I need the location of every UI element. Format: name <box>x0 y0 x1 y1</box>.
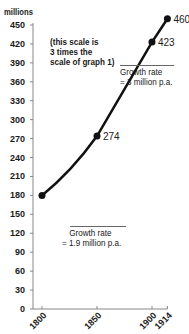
y-tick-label: 360 <box>10 77 25 87</box>
y-tick-label: 30 <box>15 285 25 295</box>
y-tick-label: 270 <box>10 134 25 144</box>
annotation-line: = 3 million p.a. <box>120 77 174 87</box>
y-tick-label: 210 <box>10 171 25 181</box>
y-tick-label: 240 <box>10 153 25 163</box>
y-tick-label: 0 <box>20 304 25 314</box>
annotation-rule <box>70 226 126 227</box>
data-point <box>94 133 101 140</box>
y-tick-label: 450 <box>10 20 25 30</box>
data-point-label: 423 <box>158 37 175 48</box>
growth-rate-annotation-low: Growth rate = 1.9 million p.a. <box>62 228 121 248</box>
x-tick-label: 1800 <box>27 310 48 331</box>
y-tick-label: 180 <box>10 190 25 200</box>
y-tick-label: 150 <box>10 209 25 219</box>
data-point <box>149 39 156 46</box>
y-tick-label: 300 <box>10 115 25 125</box>
annotation-line: Growth rate <box>120 67 174 77</box>
annotation-line: Growth rate <box>62 228 121 238</box>
data-point <box>164 15 171 22</box>
annotation-line: = 1.9 million p.a. <box>62 238 121 248</box>
x-tick-label: 1914 <box>153 310 174 331</box>
data-point <box>39 192 46 199</box>
growth-rate-annotation-high: Growth rate = 3 million p.a. <box>120 65 174 87</box>
scale-note: (this scale is 3 times the scale of grap… <box>50 37 114 67</box>
y-tick-label: 390 <box>10 58 25 68</box>
y-tick-label: 120 <box>10 228 25 238</box>
scale-note-line: (this scale is <box>50 37 114 47</box>
y-tick-label: 420 <box>10 39 25 49</box>
y-tick-label: 330 <box>10 96 25 106</box>
scale-note-line: scale of graph 1) <box>50 57 114 67</box>
x-tick-label: 1850 <box>82 310 103 331</box>
scale-note-line: 3 times the <box>50 47 114 57</box>
data-point-label: 460 <box>173 14 189 25</box>
data-point-label: 274 <box>103 131 120 142</box>
y-tick-label: 90 <box>15 247 25 257</box>
y-tick-label: 60 <box>15 266 25 276</box>
